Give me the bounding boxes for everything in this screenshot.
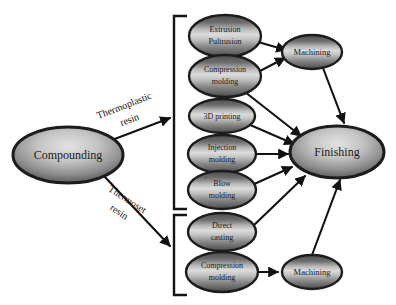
edge-direct-casting-to-finishing xyxy=(252,176,305,227)
node-injection-molding[interactable]: Injection molding xyxy=(188,135,256,173)
node-3d-printing-shape xyxy=(189,99,255,133)
node-3d-printing[interactable]: 3D printing xyxy=(189,99,255,133)
edge-label-thermoplastic-resin-line2: resin xyxy=(118,111,140,128)
node-blow-molding-shape xyxy=(188,171,256,209)
node-extrusion-pultrusion[interactable]: Extrusion Pultrusion xyxy=(189,15,261,57)
edge-label-thermoset-resin: Thermoset resin xyxy=(98,183,148,228)
flowchart-canvas: Compounding Extrusion Pultrusion Compres… xyxy=(0,0,396,305)
edge-3d-printing-to-finishing xyxy=(248,124,294,144)
node-compounding[interactable]: Compounding xyxy=(13,127,123,183)
node-finishing[interactable]: Finishing xyxy=(290,126,384,178)
node-injection-molding-shape xyxy=(188,135,256,173)
node-machining-bottom[interactable]: Machining xyxy=(282,255,342,289)
node-direct-casting[interactable]: Direct casting xyxy=(188,213,256,251)
edge-label-thermoplastic-resin: Thermoplastic resin xyxy=(95,90,159,135)
edge-label-thermoset-resin-line1: Thermoset xyxy=(107,183,149,216)
node-compression-molding-thermoset-shape xyxy=(186,252,258,292)
thermoset-bracket xyxy=(174,215,187,295)
node-machining-top[interactable]: Machining xyxy=(282,35,342,69)
edge-compounding-to-thermoset-group xyxy=(104,176,170,246)
edge-label-thermoplastic-resin-line1: Thermoplastic xyxy=(95,90,153,121)
node-extrusion-pultrusion-shape xyxy=(189,15,261,57)
polymer-processing-flowchart: Compounding Extrusion Pultrusion Compres… xyxy=(0,0,396,305)
node-compression-molding-thermoplastic-shape xyxy=(189,55,261,97)
edge-compression-thermoplastic-to-machining-top xyxy=(258,58,285,72)
thermoplastic-bracket xyxy=(174,16,187,209)
edge-blow-molding-to-finishing xyxy=(252,167,292,185)
node-machining-bottom-shape xyxy=(282,255,342,289)
edge-label-thermoset-resin-line2: resin xyxy=(108,202,130,222)
node-direct-casting-shape xyxy=(188,213,256,251)
node-blow-molding[interactable]: Blow molding xyxy=(188,171,256,209)
node-machining-top-shape xyxy=(282,35,342,69)
node-compounding-shape xyxy=(13,127,123,183)
node-compression-molding-thermoset[interactable]: Compression molding xyxy=(186,252,258,292)
edge-machining-top-to-finishing xyxy=(323,68,344,123)
edge-compounding-to-thermoplastic-group xyxy=(112,118,170,140)
node-compression-molding-thermoplastic[interactable]: Compression molding xyxy=(189,55,261,97)
node-finishing-shape xyxy=(290,126,384,178)
edge-machining-bottom-to-finishing xyxy=(312,180,340,255)
